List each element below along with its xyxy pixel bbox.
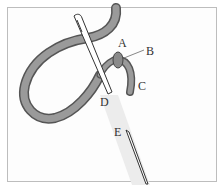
stitch-illustration <box>0 0 223 185</box>
label-b: B <box>146 45 154 57</box>
label-e: E <box>114 126 121 138</box>
label-a: A <box>118 37 127 49</box>
label-d: D <box>100 96 109 108</box>
label-c: C <box>138 80 146 92</box>
stitch-diagram: A B C D E <box>0 0 223 185</box>
